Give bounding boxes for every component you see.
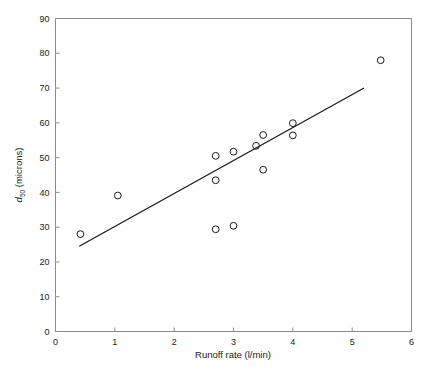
scatter-plot-figure: 0102030405060708090 0123456 Runoff rate … (0, 0, 428, 376)
x-tick-label: 5 (350, 337, 355, 347)
y-tick-label: 70 (39, 83, 49, 93)
y-tick-label: 50 (39, 153, 49, 163)
y-tick-label: 20 (39, 257, 49, 267)
y-tick-label: 40 (39, 188, 49, 198)
x-axis-title: Runoff rate (l/min) (195, 349, 271, 360)
x-tick-label: 4 (290, 337, 295, 347)
x-tick-label: 1 (112, 337, 117, 347)
plot-canvas: 0102030405060708090 0123456 Runoff rate … (0, 0, 428, 376)
x-tick-label: 2 (172, 337, 177, 347)
y-axis-units: (microns) (13, 148, 24, 190)
x-tick-label: 0 (53, 337, 58, 347)
y-tick-label: 30 (39, 222, 49, 232)
figure-background (0, 0, 428, 376)
x-tick-label: 6 (409, 337, 414, 347)
y-tick-label: 80 (39, 48, 49, 58)
y-tick-label: 90 (39, 14, 49, 24)
y-tick-label: 0 (44, 327, 49, 337)
x-tick-label: 3 (231, 337, 236, 347)
y-tick-label: 10 (39, 292, 49, 302)
y-tick-label: 60 (39, 118, 49, 128)
